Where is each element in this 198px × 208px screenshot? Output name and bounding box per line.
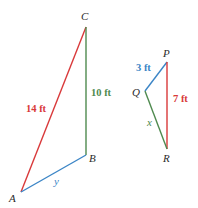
side-label-pq: 3 ft bbox=[136, 62, 151, 73]
side-label-ac: 14 ft bbox=[26, 103, 47, 114]
side-label-qr: x bbox=[146, 116, 152, 128]
side-label-ab: y bbox=[53, 175, 59, 187]
vertex-label-c: C bbox=[81, 10, 89, 22]
vertex-label-q: Q bbox=[132, 86, 140, 98]
vertex-label-r: R bbox=[162, 152, 170, 164]
vertex-label-a: A bbox=[8, 192, 16, 204]
triangle-pqr: P Q R 3 ft 7 ft x bbox=[132, 47, 188, 164]
triangle-abc: C B A 14 ft 10 ft y bbox=[8, 10, 112, 204]
side-label-pr: 7 ft bbox=[173, 93, 188, 104]
vertex-label-b: B bbox=[89, 152, 96, 164]
side-label-bc: 10 ft bbox=[91, 87, 112, 98]
vertex-label-p: P bbox=[162, 47, 170, 59]
similar-triangles-diagram: C B A 14 ft 10 ft y P Q R 3 ft 7 ft x bbox=[0, 0, 198, 208]
